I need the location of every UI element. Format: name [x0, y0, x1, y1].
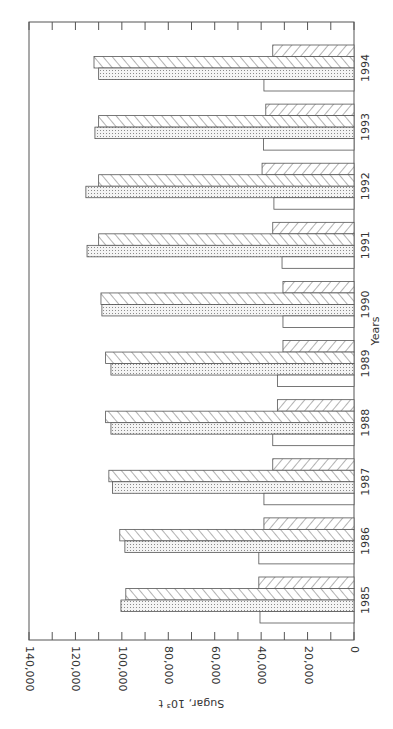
bar: [99, 234, 354, 246]
category-label: 1991: [359, 231, 372, 259]
category-label: 1987: [359, 468, 372, 496]
value-tick-label: 0: [348, 646, 361, 653]
bar: [283, 341, 354, 353]
bar: [99, 116, 354, 128]
bar: [274, 198, 354, 210]
value-tick-label: 60,000: [209, 646, 222, 685]
bar: [273, 434, 354, 446]
bar: [264, 518, 354, 530]
category-label: 1994: [359, 54, 372, 82]
bar: [99, 175, 354, 187]
category-label: 1992: [359, 172, 372, 200]
value-tick-label: 40,000: [255, 646, 268, 685]
category-label: 1985: [359, 586, 372, 614]
category-label: 1986: [359, 527, 372, 555]
bar: [101, 293, 354, 305]
bar: [113, 482, 354, 494]
bar: [264, 493, 354, 505]
bar: [259, 577, 354, 589]
bar: [111, 364, 354, 376]
value-tick-label: 140,000: [23, 646, 36, 692]
bars: [86, 45, 354, 623]
bar: [121, 600, 354, 612]
bar: [87, 245, 354, 256]
bar: [109, 470, 354, 482]
bar: [263, 139, 354, 151]
bar: [264, 80, 354, 92]
rotated-bar-chart: 020,00040,00060,00080,000100,000120,0001…: [0, 0, 393, 729]
bar: [277, 400, 354, 412]
bar: [283, 316, 354, 328]
category-label: 1989: [359, 350, 372, 378]
bar: [282, 257, 354, 269]
value-tick-label: 20,000: [302, 646, 315, 685]
bar: [126, 589, 354, 601]
category-label: 1988: [359, 409, 372, 437]
bar: [125, 541, 354, 553]
category-label: 1990: [359, 290, 372, 318]
bar: [95, 127, 354, 139]
bar: [102, 304, 354, 316]
value-tick-label: 80,000: [162, 646, 175, 685]
bar: [106, 411, 354, 423]
bar: [120, 529, 354, 541]
bar: [99, 68, 354, 80]
bar: [86, 186, 354, 198]
bar: [94, 57, 354, 69]
bar: [283, 281, 354, 293]
bar: [260, 612, 354, 624]
bar: [273, 45, 354, 57]
bar: [259, 552, 354, 564]
category-axis-title: Years: [369, 316, 382, 346]
bar: [111, 423, 354, 435]
category-label: 1993: [359, 113, 372, 141]
value-tick-label: 100,000: [116, 646, 129, 692]
value-tick-label: 120,000: [69, 646, 82, 692]
bar: [106, 352, 354, 364]
bar: [277, 375, 354, 387]
bar: [273, 222, 354, 234]
bar: [273, 459, 354, 471]
bar: [262, 163, 354, 175]
bar: [266, 104, 354, 116]
value-axis-title: Sugar, 10³ t: [158, 697, 224, 710]
